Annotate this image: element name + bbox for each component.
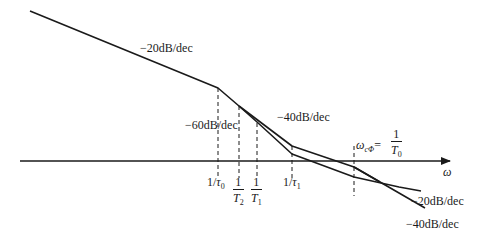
slope-label-initial: −20dB/dec	[140, 42, 193, 54]
curve-common	[30, 11, 239, 106]
slope-label-final-upper: −20dB/dec	[411, 195, 464, 207]
slope-label-steep: −60dB/dec	[185, 119, 238, 131]
slope-label-final-lower: −40dB/dec	[406, 218, 459, 230]
breakpoint-T1: 1 T1	[251, 176, 262, 207]
breakpoint-T2: 1 T2	[233, 176, 244, 207]
slope-label-middle: −40dB/dec	[277, 111, 330, 123]
breakpoint-tau1: 1/τ1	[283, 176, 301, 191]
crossover-label: ωcΦ=	[356, 139, 381, 154]
breakpoint-tau0: 1/τ0	[207, 176, 225, 191]
bode-diagram: −20dB/dec −60dB/dec −40dB/dec −20dB/dec …	[0, 0, 479, 242]
crossover-fraction: 1 T0	[391, 128, 402, 159]
axis-label-omega: ω	[443, 166, 451, 178]
